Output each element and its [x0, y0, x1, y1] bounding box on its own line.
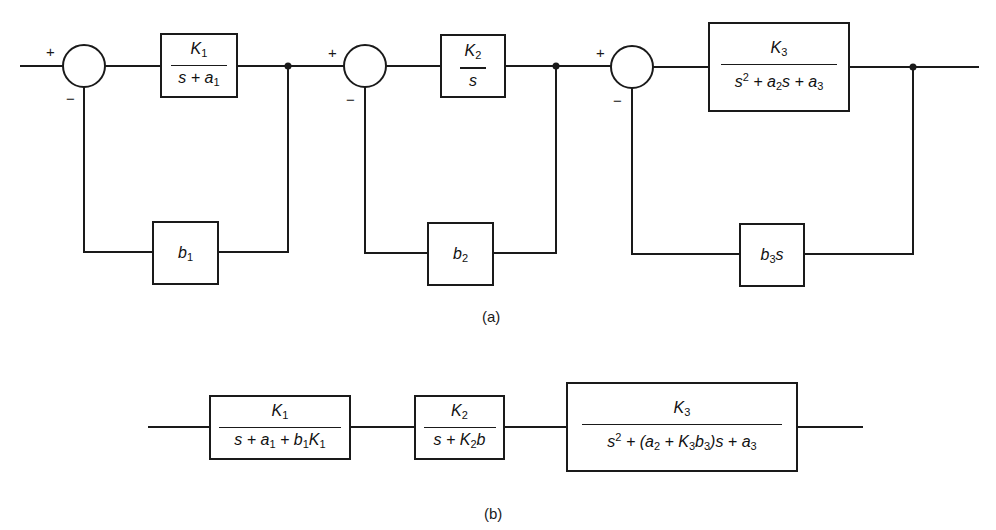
denominator: s2 + (a2 + K3b3)s + a3	[607, 427, 756, 456]
fraction-bar	[460, 67, 486, 69]
block-T1: K1 s + a1 + b1K1	[210, 396, 350, 459]
feedback-wire-2	[365, 87, 428, 253]
block-T3: K3 s2 + (a2 + K3b3)s + a3	[567, 383, 797, 471]
transfer-function: K2 s	[460, 41, 486, 91]
feedback-wire-1	[84, 87, 153, 252]
denominator: s + a1	[178, 68, 219, 92]
denominator: s + K2b	[434, 430, 486, 454]
fraction-bar	[582, 424, 782, 426]
fraction-bar	[219, 427, 341, 429]
block-G2: K2 s	[441, 35, 505, 97]
feedback-wire-3	[632, 88, 740, 254]
block-H3: b3s	[740, 224, 804, 286]
numerator: K1	[191, 39, 208, 63]
denominator: s2 + a2s + a3	[735, 67, 824, 96]
plus-sign: +	[46, 44, 55, 59]
block-G1: K1 s + a1	[161, 34, 237, 97]
caption-a: (a)	[482, 308, 500, 325]
feedback-gain: b3s	[760, 246, 783, 265]
denominator: s	[469, 71, 477, 91]
numerator: K2	[465, 41, 482, 65]
caption-b: (b)	[484, 505, 502, 522]
transfer-function: K2 s + K2b	[424, 401, 496, 455]
denominator: s + a1 + b1K1	[234, 430, 325, 454]
fraction-bar	[721, 64, 837, 66]
plus-sign: +	[596, 45, 605, 60]
numerator: K3	[674, 398, 691, 422]
summing-junction-2	[344, 45, 386, 87]
block-H2: b2	[428, 223, 493, 285]
feedback-gain: b1	[178, 244, 193, 263]
minus-sign: −	[66, 91, 75, 106]
transfer-function: K1 s + a1	[171, 39, 227, 93]
transfer-function: K1 s + a1 + b1K1	[219, 401, 341, 455]
minus-sign: −	[346, 92, 355, 107]
numerator: K2	[451, 401, 468, 425]
transfer-function: K3 s2 + a2s + a3	[721, 38, 837, 97]
summing-junction-1	[63, 45, 105, 87]
transfer-function: K3 s2 + (a2 + K3b3)s + a3	[582, 398, 782, 457]
summing-junction-3	[611, 46, 653, 88]
fraction-bar	[171, 65, 227, 67]
numerator: K3	[771, 38, 788, 62]
numerator: K1	[272, 401, 289, 425]
fraction-bar	[424, 427, 496, 429]
plus-sign: +	[328, 45, 337, 60]
block-H1: b1	[153, 222, 218, 284]
block-G3: K3 s2 + a2s + a3	[709, 23, 849, 111]
minus-sign: −	[613, 93, 622, 108]
feedback-gain: b2	[453, 245, 468, 264]
block-T2: K2 s + K2b	[415, 396, 504, 459]
